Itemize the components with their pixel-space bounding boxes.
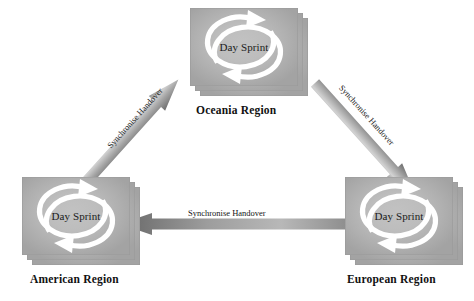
node-region-label-oceania: Oceania Region bbox=[196, 104, 276, 116]
node-region-label-american: American Region bbox=[30, 273, 119, 285]
node-inner-label-american: Day Sprint bbox=[22, 177, 130, 255]
card-stack-european: Day Sprint bbox=[345, 177, 463, 265]
node-inner-label-oceania: Day Sprint bbox=[190, 8, 298, 86]
diagram-canvas: Synchronise Handover Synchronise Handove… bbox=[0, 0, 474, 301]
node-region-label-european: European Region bbox=[347, 273, 436, 285]
node-european-region[interactable]: Day Sprint European Region bbox=[345, 177, 463, 265]
card-stack-oceania: Day Sprint bbox=[190, 8, 308, 96]
node-oceania-region[interactable]: Day Sprint Oceania Region bbox=[190, 8, 308, 96]
edge-label-european-to-american: Synchronise Handover bbox=[188, 208, 266, 218]
card-stack-american: Day Sprint bbox=[22, 177, 140, 265]
node-american-region[interactable]: Day Sprint American Region bbox=[22, 177, 140, 265]
node-inner-label-european: Day Sprint bbox=[345, 177, 453, 255]
